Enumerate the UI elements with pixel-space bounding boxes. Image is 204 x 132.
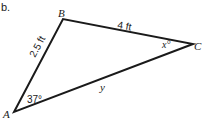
angle-a-label: 37° — [27, 94, 42, 105]
vertex-c-label: C — [194, 40, 202, 52]
side-ac-label: y — [99, 81, 105, 93]
vertex-a-label: A — [2, 108, 10, 120]
triangle-diagram: b. B C A 4 ft 2.5 ft y 37° x° — [0, 0, 204, 132]
problem-label: b. — [1, 1, 10, 13]
vertex-b-label: B — [58, 7, 65, 19]
angle-c-label: x° — [161, 39, 170, 50]
